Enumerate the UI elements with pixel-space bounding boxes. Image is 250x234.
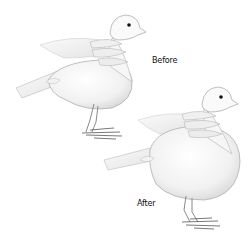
eye-icon [127,23,131,27]
eye-icon [219,95,223,99]
dove-after [104,87,240,229]
before-label: Before [152,55,177,65]
dove-drawings [0,0,250,234]
dove-before [16,15,146,139]
before-after-illustration: Before After [0,0,250,234]
after-label: After [137,198,155,208]
